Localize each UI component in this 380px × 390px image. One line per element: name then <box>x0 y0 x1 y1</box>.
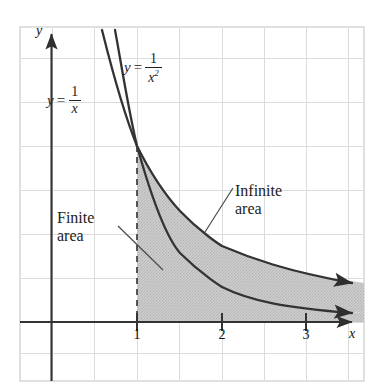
annotation-finite-area: Finite area <box>57 209 94 245</box>
curve-label-denominator: x2 <box>145 67 162 85</box>
x-tick-label-2: 2 <box>219 327 226 343</box>
curve-label-variable: y <box>47 93 54 109</box>
figure-container: y x 1 2 3 y = 1 x y = 1 x2 Infinite area <box>0 0 380 390</box>
annotation-finite-area-line2: area <box>57 227 94 245</box>
x-tick-label-1: 1 <box>134 327 141 343</box>
annotation-infinite-area: Infinite area <box>235 182 282 218</box>
plot-canvas <box>0 0 380 390</box>
curve-label-one-over-x: y = 1 x <box>47 85 81 116</box>
y-axis-label: y <box>36 23 42 39</box>
curve-label-fraction: 1 x2 <box>145 52 162 85</box>
annotation-finite-area-line1: Finite <box>57 209 94 227</box>
curve-label-variable: y <box>124 60 131 76</box>
x-tick-label-3: 3 <box>303 327 310 343</box>
curve-label-numerator: 1 <box>147 52 160 67</box>
curve-label-numerator: 1 <box>68 85 81 100</box>
annotation-infinite-area-line2: area <box>235 200 282 218</box>
curve-label-equals: = <box>57 93 65 109</box>
annotation-infinite-area-line1: Infinite <box>235 182 282 200</box>
curve-label-denominator-exponent: 2 <box>154 68 159 78</box>
curve-label-equals: = <box>134 60 142 76</box>
curve-label-denominator: x <box>69 100 81 116</box>
curve-label-one-over-x-squared: y = 1 x2 <box>124 52 162 85</box>
x-axis-label: x <box>349 326 355 342</box>
curve-label-fraction: 1 x <box>68 85 81 116</box>
figure-frame <box>20 27 364 381</box>
